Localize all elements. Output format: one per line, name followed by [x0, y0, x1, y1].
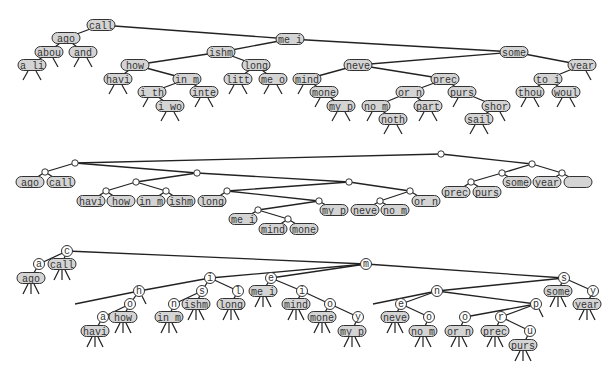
null-child-stub — [579, 310, 584, 320]
node-label: my p — [322, 206, 346, 217]
null-child-stub — [266, 297, 271, 307]
word-prec: prec — [481, 326, 509, 338]
bst-node-and: and — [69, 47, 97, 59]
node-label: and — [74, 48, 92, 59]
word-mone: mone — [308, 312, 336, 324]
bst-node-noth: noth — [379, 114, 407, 126]
node-label: or n — [414, 197, 438, 208]
letter-label: n — [434, 286, 440, 297]
null-child-stub — [87, 337, 92, 347]
node-label: a li — [20, 61, 44, 72]
word-ago: ago — [17, 273, 45, 285]
node-label: purs — [511, 341, 535, 352]
leaf-ago: ago — [16, 177, 44, 189]
node-label: abou — [37, 48, 61, 59]
node-label: year — [575, 300, 599, 311]
node-label: prec — [444, 188, 468, 199]
node-label: in m — [157, 313, 181, 324]
tree-edge — [75, 154, 441, 163]
junction-circle — [316, 198, 322, 204]
null-child-stub — [208, 98, 213, 107]
node-label: shor — [484, 102, 508, 113]
letter-label: o — [462, 312, 468, 323]
leaf-call: call — [47, 177, 75, 189]
null-child-stub — [515, 351, 520, 361]
junction-o: o — [125, 299, 136, 311]
node-label: mone — [292, 225, 316, 236]
node-label: some — [502, 48, 526, 59]
null-child-stub — [470, 125, 475, 134]
null-child-stub — [550, 297, 555, 307]
leaf-some: some — [503, 177, 531, 189]
node-label: year — [570, 61, 594, 72]
node-label: prec — [433, 75, 457, 86]
letter-label: c — [64, 246, 70, 257]
bst-node-neve: neve — [344, 60, 372, 72]
tree-edge — [227, 182, 349, 191]
junction-circle — [559, 170, 565, 176]
letter-label: e — [398, 299, 404, 310]
junction-circle — [346, 179, 352, 185]
null-child-stub — [451, 337, 456, 347]
bst-node-no-m: no m — [362, 101, 390, 113]
word-purs: purs — [509, 340, 537, 352]
null-child-stub — [315, 98, 320, 107]
word-no-m: no m — [409, 326, 437, 338]
bst-node-prec: prec — [431, 74, 459, 86]
junction-circle — [133, 179, 139, 185]
bst-node-my-p: my p — [327, 101, 355, 113]
leaf-ishm: ishm — [167, 196, 195, 208]
junction-circle — [224, 188, 230, 194]
null-child-stub — [143, 98, 148, 107]
junction-y: y — [588, 286, 599, 298]
word-or-n: or n — [445, 326, 473, 338]
junction-circle — [255, 207, 261, 213]
letter-label: u — [527, 326, 533, 337]
node-label: ago — [21, 178, 39, 189]
letter-label: o — [127, 299, 133, 310]
tree-edge — [502, 164, 532, 173]
null-child-stub — [174, 112, 179, 121]
null-child-stub — [344, 337, 349, 347]
null-child-stub — [557, 98, 562, 107]
junction-j_right — [529, 161, 535, 167]
node-label: long — [244, 61, 268, 72]
null-child-stub — [234, 310, 239, 320]
node-label: no m — [383, 206, 407, 217]
null-child-stub — [199, 310, 204, 320]
node-label: ishm — [169, 197, 193, 208]
tree-edge — [136, 173, 197, 182]
junction-j_neve — [377, 198, 383, 204]
leaf-year: year — [533, 177, 561, 189]
tree-edge — [290, 39, 514, 52]
word-me-i: me i — [249, 286, 277, 298]
word-havi: havi — [81, 326, 109, 338]
letter-label: y — [355, 312, 361, 323]
letter-label: a — [100, 312, 106, 323]
node-label: inte — [192, 88, 216, 99]
null-child-stub — [229, 85, 234, 94]
bst-node-purs: purs — [448, 87, 476, 99]
leaf-mind: mind — [259, 224, 287, 236]
bst-node-abou: abou — [35, 47, 63, 59]
letter-label: s — [199, 286, 205, 297]
leaf-mone: mone — [290, 224, 318, 236]
null-child-stub — [586, 71, 591, 80]
tree-edge — [258, 201, 319, 210]
junction-circle — [163, 188, 169, 194]
null-child-stub — [23, 71, 28, 80]
null-child-stub — [387, 323, 392, 333]
node-label: purs — [475, 188, 499, 199]
null-child-stub — [161, 112, 166, 121]
node-label: my p — [340, 327, 364, 338]
junction-circle — [468, 179, 474, 185]
node-label: havi — [79, 197, 103, 208]
junction-circle — [285, 216, 291, 222]
junction-j_prec — [499, 170, 505, 176]
bst-node-me-o: me o — [259, 74, 287, 86]
bst-node-mone: mone — [310, 87, 338, 99]
letter-label: m — [363, 259, 369, 270]
null-child-stub — [53, 58, 58, 67]
junction-circle — [194, 170, 200, 176]
node-label: part — [416, 102, 440, 113]
